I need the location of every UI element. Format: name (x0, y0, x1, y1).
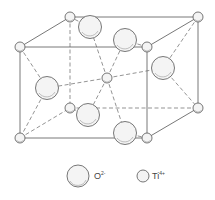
titanium-legend-label: Ti4+ (152, 170, 165, 181)
oxygen-atom (114, 122, 137, 145)
legend: O2- Ti4+ (67, 165, 165, 187)
legend-titanium: Ti4+ (137, 170, 165, 182)
cell-edge (20, 17, 70, 47)
cell-edge (147, 17, 198, 47)
oxygen-atom (36, 77, 59, 100)
titanium-atom (15, 42, 25, 52)
cell-edge (147, 108, 198, 138)
oxygen-legend-label: O2- (94, 170, 106, 181)
titanium-atom (102, 73, 112, 83)
oxygen-legend-circle (67, 165, 89, 187)
titanium-atom (15, 133, 25, 143)
titanium-atom (142, 42, 152, 52)
oxygen-atom (79, 16, 102, 39)
oxygen-atom (152, 57, 175, 80)
rutile-unit-cell-diagram: O2- Ti4+ (0, 0, 215, 200)
legend-oxygen: O2- (67, 165, 106, 187)
titanium-atom (193, 103, 203, 113)
bond-line (20, 108, 70, 138)
titanium-atom (142, 133, 152, 143)
oxygen-atom (77, 104, 100, 127)
titanium-atom (65, 12, 75, 22)
oxygen-atom (114, 29, 137, 52)
titanium-atom (65, 103, 75, 113)
titanium-atom (193, 12, 203, 22)
titanium-legend-circle (137, 170, 149, 182)
